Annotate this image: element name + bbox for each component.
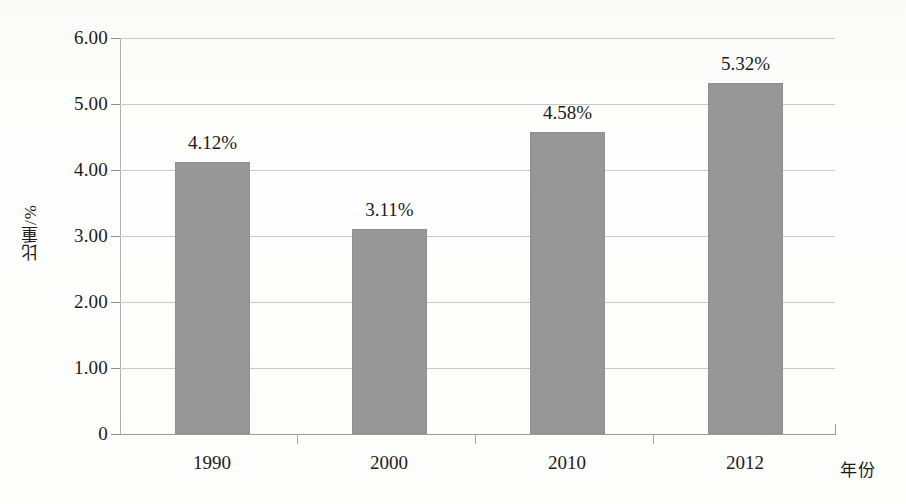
bar-2000[interactable]	[352, 229, 427, 434]
y-tick-label-2: 2.00	[74, 291, 108, 313]
y-tick-mark-5	[111, 104, 120, 105]
y-axis-title: 比重/%	[18, 204, 43, 261]
y-tick-label-6: 6.00	[74, 27, 108, 49]
x-tick-label-2012: 2012	[726, 452, 764, 474]
bar-chart: 6.00 5.00 4.00 3.00 2.00 1.00 0 4.12% 3.…	[0, 0, 906, 504]
y-tick-mark-1	[111, 368, 120, 369]
bar-label-2000: 3.11%	[365, 199, 413, 221]
x-tick-label-2010: 2010	[548, 452, 586, 474]
gridline-6	[120, 38, 835, 39]
y-tick-mark-6	[111, 38, 120, 39]
bar-2012[interactable]	[708, 83, 783, 434]
y-tick-label-0: 0	[98, 423, 108, 445]
x-tick-mark-1	[297, 434, 298, 444]
bar-label-2010: 4.58%	[543, 102, 592, 124]
bar-label-1990: 4.12%	[188, 132, 237, 154]
bar-1990[interactable]	[175, 162, 250, 434]
y-tick-mark-3	[111, 236, 120, 237]
y-tick-label-1: 1.00	[74, 357, 108, 379]
y-tick-mark-4	[111, 170, 120, 171]
y-axis-tick-labels: 6.00 5.00 4.00 3.00 2.00 1.00 0	[0, 38, 108, 434]
x-tick-label-2000: 2000	[370, 452, 408, 474]
x-axis-end-tick	[835, 424, 836, 435]
bar-label-2012: 5.32%	[721, 53, 770, 75]
x-axis-baseline	[120, 434, 835, 435]
x-tick-label-1990: 1990	[193, 452, 231, 474]
y-tick-label-4: 4.00	[74, 159, 108, 181]
y-tick-label-3: 3.00	[74, 225, 108, 247]
x-tick-mark-3	[653, 434, 654, 444]
bar-2010[interactable]	[530, 132, 605, 434]
x-axis-title: 年份	[840, 456, 876, 481]
y-tick-label-5: 5.00	[74, 93, 108, 115]
plot-area: 4.12% 3.11% 4.58% 5.32%	[120, 38, 835, 434]
x-tick-mark-2	[475, 434, 476, 444]
y-tick-mark-2	[111, 302, 120, 303]
y-tick-mark-0	[111, 434, 120, 435]
